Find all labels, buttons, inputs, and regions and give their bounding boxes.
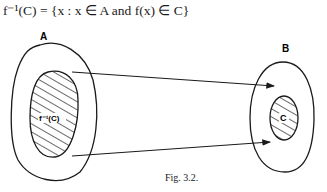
subset-c-label: C <box>280 113 287 123</box>
set-b-label: B <box>282 43 289 54</box>
set-a-label: A <box>40 31 47 42</box>
mapping-arrow-top <box>72 72 274 86</box>
mapping-arrow-bottom <box>72 142 270 156</box>
preimage-label: f⁻¹(C) <box>39 114 60 123</box>
mapping-diagram: A B f⁻¹(C) C <box>0 0 327 192</box>
figure-caption: Fig. 3.2. <box>165 172 198 183</box>
